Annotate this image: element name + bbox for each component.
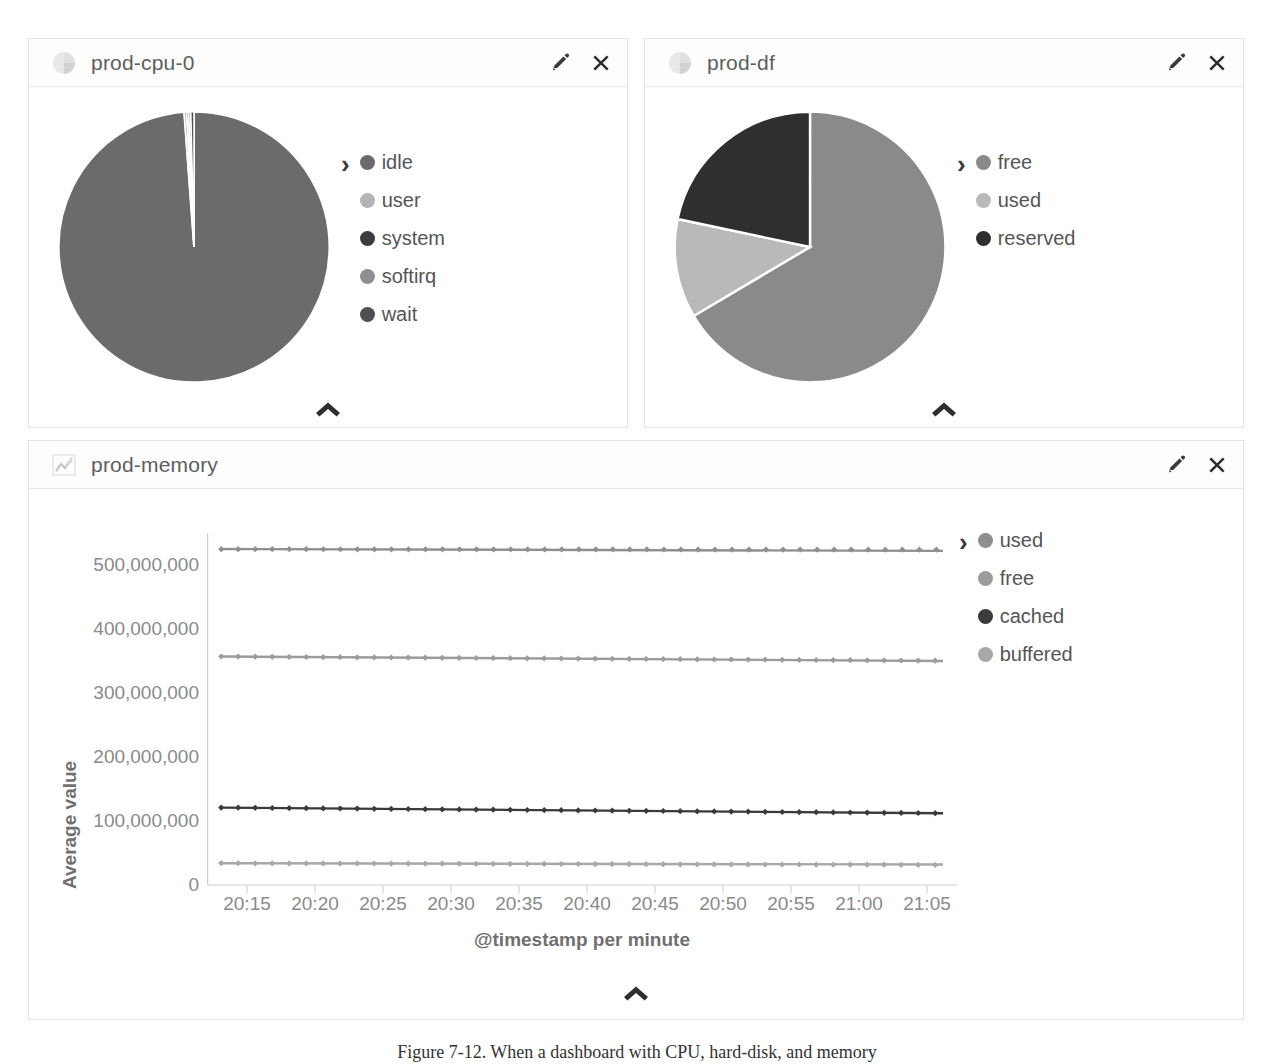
legend-color-swatch (976, 155, 991, 170)
dashboard: prod-cpu-0 (0, 0, 1274, 1064)
collapse-panel-chevron-up-icon[interactable] (927, 395, 961, 421)
legend-color-swatch (360, 231, 375, 246)
panel-body: › free used reserved (645, 87, 1243, 427)
x-tick-label: 20:25 (359, 893, 407, 915)
x-tick-label: 20:50 (699, 893, 747, 915)
panel-prod-df: prod-df (644, 38, 1244, 428)
legend-item-label: idle (382, 151, 413, 174)
x-tick-label: 20:15 (223, 893, 271, 915)
panel-header: prod-cpu-0 (29, 39, 627, 87)
legend-item-free[interactable]: free (976, 143, 1076, 181)
legend-item-label: user (382, 189, 421, 212)
legend-item-used[interactable]: used (978, 521, 1073, 559)
x-tick-label: 20:35 (495, 893, 543, 915)
x-tick-label: 21:00 (835, 893, 883, 915)
legend-item-label: cached (1000, 605, 1065, 628)
panel-prod-cpu-0: prod-cpu-0 (28, 38, 628, 428)
legend-item-used[interactable]: used (976, 181, 1076, 219)
edit-pencil-icon[interactable] (1167, 53, 1187, 73)
page-title: prod-cpu-0 (91, 51, 195, 75)
legend-item-label: free (1000, 567, 1034, 590)
series-cached (218, 804, 943, 816)
edit-pencil-icon[interactable] (551, 53, 571, 73)
panel-header-actions (1167, 53, 1227, 73)
y-tick-label: 300,000,000 (69, 682, 199, 704)
legend-item-label: system (382, 227, 445, 250)
x-tick-label: 20:45 (631, 893, 679, 915)
y-tick-label: 0 (69, 874, 199, 896)
legend-item-label: wait (382, 303, 418, 326)
collapse-panel-chevron-up-icon[interactable] (619, 979, 653, 1005)
legend-item-cached[interactable]: cached (978, 597, 1073, 635)
legend-expand-chevron-icon[interactable]: › (957, 143, 966, 177)
legend-item-wait[interactable]: wait (360, 295, 445, 333)
legend-prod-cpu-0: › idle user system (341, 143, 445, 333)
pie-chart-icon (667, 50, 693, 76)
page-title: prod-df (707, 51, 775, 75)
panel-body: Average value 500,000,000 400,000,000 30… (29, 489, 1243, 1019)
legend-color-swatch (978, 533, 993, 548)
legend-color-swatch (360, 193, 375, 208)
legend-prod-memory: › used free cached (959, 521, 1073, 673)
x-tick-label: 21:05 (903, 893, 951, 915)
y-tick-label: 200,000,000 (69, 746, 199, 768)
legend-item-user[interactable]: user (360, 181, 445, 219)
line-chart-icon (51, 452, 77, 478)
pie-chart-prod-cpu-0 (49, 97, 339, 397)
panel-header-actions (551, 53, 611, 73)
close-icon[interactable] (1207, 53, 1227, 73)
legend-item-reserved[interactable]: reserved (976, 219, 1076, 257)
legend-color-swatch (978, 609, 993, 624)
series-free (218, 653, 943, 663)
panel-header: prod-df (645, 39, 1243, 87)
legend-item-label: buffered (1000, 643, 1073, 666)
legend-item-system[interactable]: system (360, 219, 445, 257)
legend-color-swatch (976, 231, 991, 246)
y-tick-label: 400,000,000 (69, 618, 199, 640)
close-icon[interactable] (1207, 455, 1227, 475)
legend-color-swatch (976, 193, 991, 208)
y-tick-label: 100,000,000 (69, 810, 199, 832)
legend-item-label: free (998, 151, 1032, 174)
legend-color-swatch (360, 269, 375, 284)
panel-body: › idle user system (29, 87, 627, 427)
x-tick-label: 20:55 (767, 893, 815, 915)
legend-color-swatch (978, 647, 993, 662)
x-tick-label: 20:40 (563, 893, 611, 915)
series-used (218, 546, 943, 553)
pie-chart-icon (51, 50, 77, 76)
line-chart-plot-area[interactable] (207, 533, 957, 893)
legend-items: free used reserved (976, 143, 1076, 257)
legend-color-swatch (360, 155, 375, 170)
legend-color-swatch (360, 307, 375, 322)
x-tick-label: 20:30 (427, 893, 475, 915)
legend-items: idle user system softirq (360, 143, 445, 333)
figure-caption: Figure 7-12. When a dashboard with CPU, … (0, 1042, 1274, 1064)
page-title: prod-memory (91, 453, 218, 477)
collapse-panel-chevron-up-icon[interactable] (311, 395, 345, 421)
legend-items: used free cached buffered (978, 521, 1073, 673)
panel-prod-memory: prod-memory Average value (28, 440, 1244, 1020)
legend-item-label: reserved (998, 227, 1076, 250)
series-buffered (218, 860, 943, 868)
close-icon[interactable] (591, 53, 611, 73)
x-axis-title: @timestamp per minute (207, 929, 957, 951)
legend-item-free[interactable]: free (978, 559, 1073, 597)
edit-pencil-icon[interactable] (1167, 455, 1187, 475)
legend-color-swatch (978, 571, 993, 586)
pie-chart-prod-df (665, 97, 955, 397)
legend-item-label: used (998, 189, 1041, 212)
legend-expand-chevron-icon[interactable]: › (341, 143, 350, 177)
legend-item-buffered[interactable]: buffered (978, 635, 1073, 673)
legend-item-softirq[interactable]: softirq (360, 257, 445, 295)
legend-prod-df: › free used reserved (957, 143, 1075, 257)
legend-item-label: used (1000, 529, 1043, 552)
legend-item-idle[interactable]: idle (360, 143, 445, 181)
panel-header-actions (1167, 455, 1227, 475)
panel-header: prod-memory (29, 441, 1243, 489)
legend-expand-chevron-icon[interactable]: › (959, 521, 968, 555)
y-tick-label: 500,000,000 (69, 554, 199, 576)
legend-item-label: softirq (382, 265, 436, 288)
x-tick-label: 20:20 (291, 893, 339, 915)
